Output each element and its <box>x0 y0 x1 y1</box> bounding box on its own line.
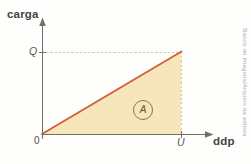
physics-graph-figure: carga ddp Q U 0 A Banco de imagens/Arqui… <box>0 0 251 164</box>
y-axis-tick-label-q: Q <box>29 46 37 57</box>
area-annotation-circle: A <box>133 100 153 120</box>
publisher-credit-text: Banco de imagens/Arquivo da editora <box>242 28 249 136</box>
x-axis-tick-label-u: U <box>177 137 185 148</box>
y-axis-title: carga <box>7 9 39 21</box>
origin-label: 0 <box>34 136 40 146</box>
publisher-credit: Banco de imagens/Arquivo da editora <box>238 0 251 164</box>
x-axis-title: ddp <box>213 136 235 148</box>
y-axis-arrowhead <box>39 18 46 27</box>
area-annotation-label: A <box>140 105 147 115</box>
